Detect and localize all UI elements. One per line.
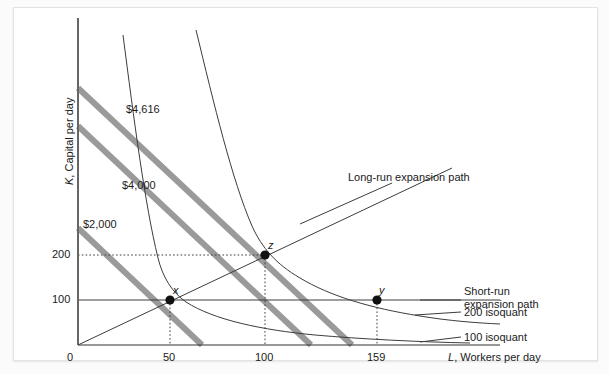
x-tick-label-159: 159 bbox=[367, 352, 385, 363]
isocost-lines bbox=[78, 88, 392, 345]
y-axis-symbol: K bbox=[63, 178, 75, 185]
isocost-line-4000 bbox=[78, 126, 311, 345]
point-z bbox=[260, 250, 269, 259]
isocost-label-4000: $4,000 bbox=[122, 180, 156, 191]
x-tick-label-100: 100 bbox=[255, 352, 273, 363]
x-axis-title-rest: , Workers per day bbox=[454, 351, 541, 363]
point-y bbox=[372, 295, 381, 304]
isocost-label-4616: $4,616 bbox=[126, 104, 160, 115]
point-label-x: x bbox=[173, 285, 179, 296]
point-x bbox=[165, 295, 174, 304]
leader-line-isoquant-100 bbox=[420, 337, 461, 342]
isocost-label-2000: $2,000 bbox=[83, 219, 117, 230]
leader-line-isoquant-200 bbox=[415, 312, 461, 315]
y-axis-title-rest: , Capital per day bbox=[63, 98, 75, 178]
y-axis-title: K, Capital per day bbox=[64, 98, 75, 185]
short-run-line-1: Short-run bbox=[464, 285, 539, 298]
x-axis-title: L, Workers per day bbox=[448, 352, 541, 363]
point-label-y: y bbox=[379, 285, 385, 296]
annotation-isoquant-100: 100 isoquant bbox=[464, 332, 527, 343]
x-tick-label-50: 50 bbox=[163, 352, 175, 363]
isocost-line-2000 bbox=[78, 228, 202, 345]
annotation-long-run-expansion-path: Long-run expansion path bbox=[348, 172, 470, 183]
point-label-z: z bbox=[268, 240, 274, 251]
annotation-isoquant-200: 200 isoquant bbox=[464, 307, 527, 318]
isocost-line-4616 bbox=[78, 88, 352, 345]
y-tick-label-100: 100 bbox=[52, 294, 70, 305]
y-tick-label-200: 200 bbox=[52, 249, 70, 260]
figure-page: K, Capital per day L, Workers per day 0 … bbox=[0, 0, 609, 374]
x-tick-label-0: 0 bbox=[67, 352, 73, 363]
